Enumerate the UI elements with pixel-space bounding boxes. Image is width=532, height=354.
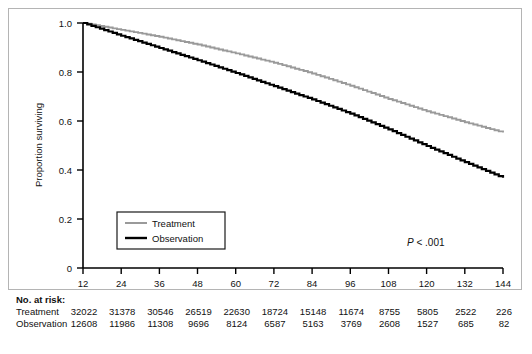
x-tick-label-72: 72 <box>269 278 280 289</box>
x-tick-label-48: 48 <box>192 278 203 289</box>
risk-cell: 11986 <box>109 318 135 329</box>
y-tick-label-0: 0 <box>67 263 72 274</box>
risk-cell: 5163 <box>303 318 324 329</box>
y-ticks <box>77 23 83 268</box>
risk-cell: 685 <box>458 318 474 329</box>
y-tick-label-06: 0.6 <box>59 116 72 127</box>
risk-cell: 5805 <box>417 306 438 317</box>
p-value-rest: < .001 <box>414 237 445 248</box>
y-tick-label-04: 0.4 <box>59 165 72 176</box>
risk-cell: 22630 <box>224 306 250 317</box>
risk-row-values-treatment: 3202231378305462651922630187241514811674… <box>8 306 524 318</box>
plot-frame: 1.0 0.8 0.6 0.4 0.2 0 Proportion survivi… <box>8 8 522 290</box>
risk-cell: 15148 <box>300 306 326 317</box>
risk-cell: 31378 <box>109 306 135 317</box>
risk-table: No. at risk: Treatment 32022313783054626… <box>8 294 524 348</box>
risk-cell: 11674 <box>338 306 364 317</box>
x-tick-label-120: 120 <box>419 278 435 289</box>
risk-cell: 82 <box>499 318 510 329</box>
risk-table-row-observation: Observation 1260811986113089696812465875… <box>8 318 524 330</box>
chart-canvas: 1.0 0.8 0.6 0.4 0.2 0 Proportion survivi… <box>9 9 523 291</box>
legend-label-treatment: Treatment <box>152 218 195 229</box>
risk-cell: 32022 <box>71 306 97 317</box>
risk-cell: 8124 <box>226 318 247 329</box>
x-ticks <box>83 268 503 274</box>
risk-cell: 1527 <box>417 318 438 329</box>
x-tick-label-84: 84 <box>307 278 318 289</box>
y-axis-title: Proportion surviving <box>33 103 44 187</box>
risk-table-row-treatment: Treatment 320223137830546265192263018724… <box>8 306 524 318</box>
p-value-annotation: P < .001 <box>407 237 445 248</box>
x-tick-label-96: 96 <box>345 278 356 289</box>
legend-label-observation: Observation <box>152 233 203 244</box>
legend: Treatment Observation <box>117 212 225 249</box>
survival-figure: 1.0 0.8 0.6 0.4 0.2 0 Proportion survivi… <box>0 0 532 354</box>
risk-cell: 18724 <box>262 306 288 317</box>
risk-cell: 12608 <box>71 318 97 329</box>
x-tick-label-144: 144 <box>495 278 511 289</box>
curve-treatment <box>83 23 503 133</box>
y-tick-label-02: 0.2 <box>59 214 72 225</box>
risk-cell: 3769 <box>341 318 362 329</box>
risk-cell: 26519 <box>185 306 211 317</box>
x-tick-label-108: 108 <box>381 278 397 289</box>
risk-table-title: No. at risk: <box>16 294 65 305</box>
risk-cell: 8755 <box>379 306 400 317</box>
x-tick-label-60: 60 <box>230 278 241 289</box>
y-tick-label-08: 0.8 <box>59 67 72 78</box>
x-tick-label-132: 132 <box>457 278 473 289</box>
curve-observation <box>83 23 503 178</box>
risk-row-values-observation: 1260811986113089696812465875163376926081… <box>8 318 524 330</box>
x-tick-label-24: 24 <box>116 278 127 289</box>
risk-cell: 2608 <box>379 318 400 329</box>
risk-cell: 9696 <box>188 318 209 329</box>
svg-text:P < .001: P < .001 <box>407 237 445 248</box>
x-tick-label-36: 36 <box>154 278 165 289</box>
x-tick-label-12: 12 <box>78 278 89 289</box>
risk-cell: 6587 <box>264 318 285 329</box>
risk-cell: 2522 <box>455 306 476 317</box>
y-tick-label-1: 1.0 <box>59 18 72 29</box>
risk-cell: 30546 <box>147 306 173 317</box>
risk-cell: 226 <box>496 306 512 317</box>
risk-cell: 11308 <box>148 318 174 329</box>
